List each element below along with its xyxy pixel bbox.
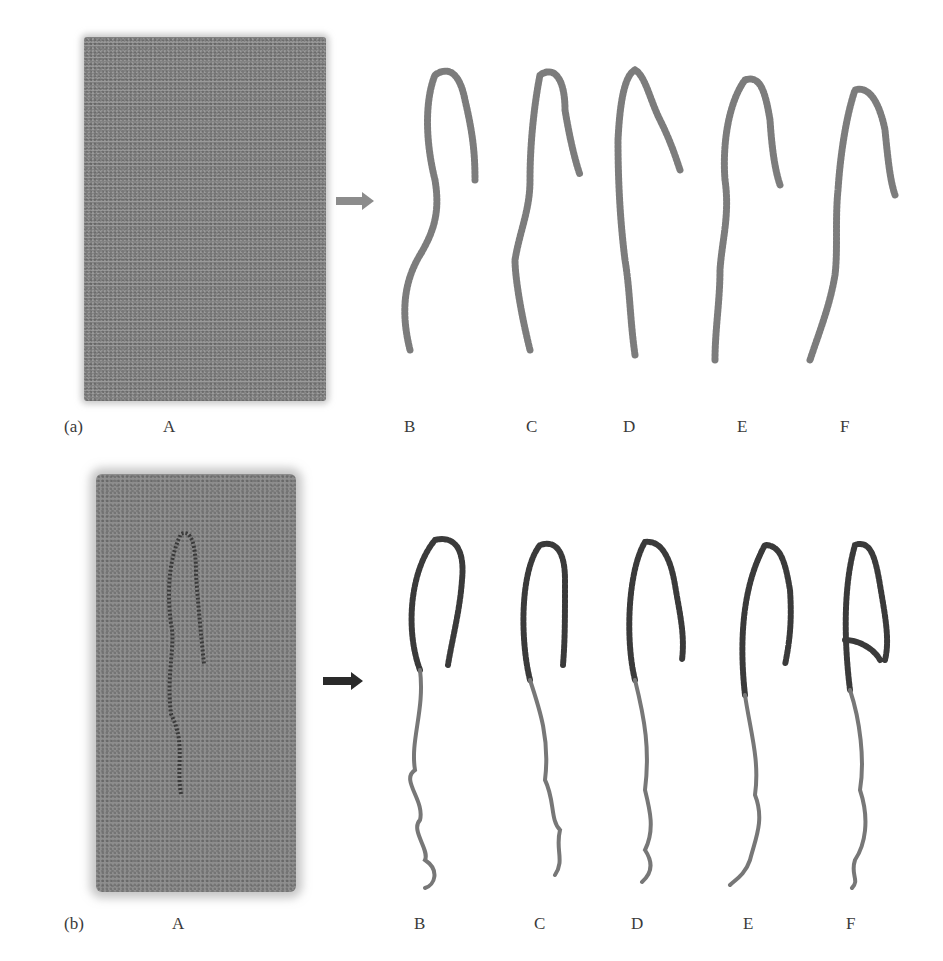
solvent-box-a	[84, 37, 326, 401]
embedded-chain-b	[96, 474, 296, 892]
panel-tag-a: (a)	[64, 417, 83, 437]
subpanel-label-b-D: D	[631, 914, 643, 934]
subpanel-label-b-B: B	[414, 914, 425, 934]
subpanel-label-a-C: C	[526, 417, 537, 437]
subpanel-label-a-A: A	[163, 417, 175, 437]
right-arrow-icon-a	[336, 191, 376, 211]
subpanel-label-b-A: A	[172, 914, 184, 934]
right-arrow-icon-b	[323, 671, 365, 691]
subpanel-label-a-D: D	[623, 417, 635, 437]
subpanel-label-b-F: F	[846, 914, 855, 934]
stick-conformations-a	[380, 60, 920, 370]
subpanel-label-b-E: E	[743, 914, 753, 934]
subpanel-label-a-F: F	[840, 417, 849, 437]
ribbon-conformations-b	[380, 530, 920, 900]
subpanel-label-a-B: B	[404, 417, 415, 437]
panel-tag-b: (b)	[64, 914, 84, 934]
subpanel-label-a-E: E	[737, 417, 747, 437]
subpanel-label-b-C: C	[534, 914, 545, 934]
